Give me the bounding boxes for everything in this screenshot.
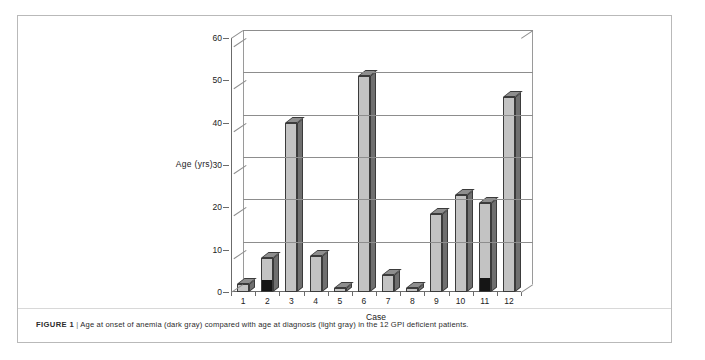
bar-column[interactable] [358, 76, 372, 292]
bar-side-face [370, 71, 376, 292]
x-axis-tick-mark [304, 292, 305, 296]
y-axis-tick-label: 20 [192, 202, 222, 212]
y-axis-tick-mark [223, 38, 229, 39]
grid-line [243, 30, 533, 31]
bar-front-face [310, 256, 322, 292]
bar-front-face [382, 275, 394, 292]
x-axis-tick-label: 9 [425, 296, 447, 306]
chart-plot-area: Age (yrs) 0102030405060 123456789101112 … [18, 16, 673, 308]
bar-column[interactable] [430, 214, 444, 292]
bar-column[interactable] [503, 97, 517, 292]
y-axis-tick-mark [223, 207, 229, 208]
bar-front-face [261, 258, 273, 292]
caption-divider-rule [18, 308, 671, 309]
y-axis-tick-label: 10 [192, 245, 222, 255]
figure-caption: FIGURE 1|Age at onset of anemia (dark gr… [36, 319, 657, 330]
bar-segment-diagnosis [359, 77, 369, 291]
bar-column[interactable] [406, 288, 420, 292]
y-axis-tick-label: 40 [192, 118, 222, 128]
y-axis-tick-mark [223, 123, 229, 124]
y-axis-tick-label: 50 [192, 75, 222, 85]
y-axis-tick-mark [223, 250, 229, 251]
bar-front-face [479, 203, 491, 292]
x-axis-tick-label: 6 [353, 296, 375, 306]
bar-segment-diagnosis [286, 124, 296, 291]
bar-side-face [515, 93, 521, 292]
x-axis-tick-mark [255, 292, 256, 296]
x-axis-tick-mark [424, 292, 425, 296]
bar-segment-diagnosis [456, 196, 466, 291]
bar-segment-diagnosis [335, 289, 345, 291]
bar-segment-diagnosis [504, 98, 514, 291]
x-axis-tick-label: 8 [401, 296, 423, 306]
x-axis-tick-mark [328, 292, 329, 296]
y-axis-tick-label: 0 [192, 287, 222, 297]
bar-segment-diagnosis [383, 276, 393, 291]
figure-caption-label: FIGURE 1 [36, 320, 74, 329]
x-axis-tick-label: 12 [498, 296, 520, 306]
y-axis-tick-mark [223, 292, 229, 293]
grid-line [243, 72, 533, 73]
bar-series-container [231, 38, 521, 292]
bar-column[interactable] [310, 256, 324, 292]
bar-column[interactable] [479, 203, 493, 292]
y-axis-tick-labels: 0102030405060 [188, 16, 222, 308]
bar-segment-anemia-onset [480, 278, 490, 291]
x-axis-tick-label: 11 [474, 296, 496, 306]
bar-column[interactable] [334, 288, 348, 292]
x-axis-tick-label: 10 [450, 296, 472, 306]
bar-segment-anemia-onset [262, 280, 272, 291]
bar-side-face [273, 253, 279, 292]
x-axis-tick-label: 2 [256, 296, 278, 306]
bar-side-face [322, 251, 328, 292]
grid-line [243, 157, 533, 158]
x-axis-tick-mark [473, 292, 474, 296]
y-axis-tick-label: 30 [192, 160, 222, 170]
bar-segment-diagnosis [431, 215, 441, 291]
bar-segment-diagnosis [311, 257, 321, 291]
x-axis-tick-mark [279, 292, 280, 296]
figure-container: Age (yrs) 0102030405060 123456789101112 … [17, 15, 672, 343]
bar-side-face [297, 118, 303, 292]
x-axis-tick-mark [400, 292, 401, 296]
bar-column[interactable] [455, 195, 469, 292]
bar-front-face [406, 288, 418, 292]
grid-line [243, 115, 533, 116]
x-axis-tick-label: 4 [305, 296, 327, 306]
y-axis-tick-mark [223, 165, 229, 166]
figure-caption-text: Age at onset of anemia (dark gray) compa… [80, 320, 468, 329]
bar-side-face [442, 209, 448, 292]
x-axis-tick-mark [352, 292, 353, 296]
bar-column[interactable] [285, 123, 299, 292]
x-axis-tick-mark [376, 292, 377, 296]
bar-column[interactable] [261, 258, 275, 292]
grid-line [243, 199, 533, 200]
bar-front-face [503, 97, 515, 292]
bar-side-face [491, 198, 497, 292]
x-axis-tick-mark [497, 292, 498, 296]
bar-front-face [285, 123, 297, 292]
plot-depth-edge [521, 284, 534, 293]
grid-line [243, 242, 533, 243]
bar-front-face [455, 195, 467, 292]
x-axis-tick-label: 7 [377, 296, 399, 306]
bar-column[interactable] [237, 284, 251, 292]
bar-front-face [358, 76, 370, 292]
bar-front-face [430, 214, 442, 292]
y-axis-tick-mark [223, 80, 229, 81]
bar-column[interactable] [382, 275, 396, 292]
bar-front-face [334, 288, 346, 292]
bar-segment-diagnosis [407, 289, 417, 291]
x-axis-tick-label: 1 [232, 296, 254, 306]
x-axis-tick-label: 5 [329, 296, 351, 306]
y-axis-tick-label: 60 [192, 33, 222, 43]
x-axis-tick-mark [449, 292, 450, 296]
x-axis-tick-label: 3 [280, 296, 302, 306]
